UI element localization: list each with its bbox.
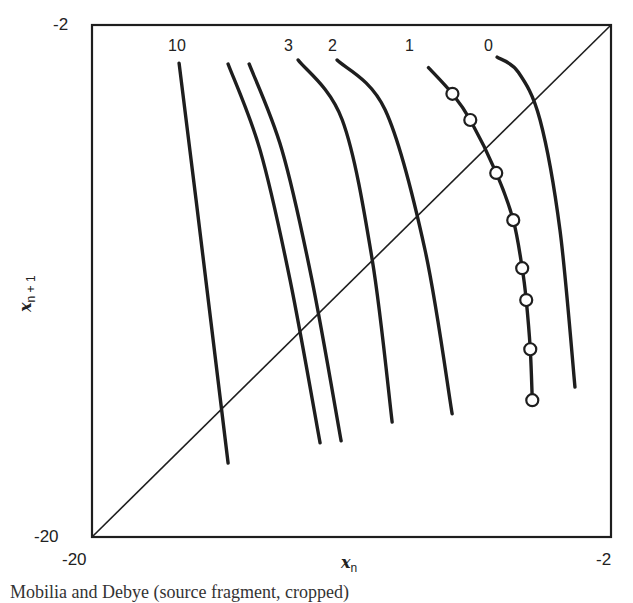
data-point-marker: [520, 294, 532, 306]
y-axis-label: xn + 1: [16, 275, 38, 312]
curve-2: [337, 60, 452, 414]
data-point-marker: [507, 214, 519, 226]
y-tick-max: -2: [53, 15, 68, 35]
curve-label-3: 3: [284, 37, 293, 55]
y-axis-sub: n + 1: [24, 275, 38, 302]
curve-label-2: 2: [328, 37, 337, 55]
x-axis-label: xn: [341, 553, 357, 575]
curve-unlabeled-b: [249, 64, 341, 441]
curve-label-1: 1: [405, 37, 414, 55]
x-axis-var: x: [341, 553, 351, 572]
y-axis-var: x: [16, 302, 35, 312]
x-axis-sub: n: [351, 561, 358, 575]
data-point-marker: [526, 394, 538, 406]
curve-10: [179, 63, 228, 463]
x-tick-min: -20: [62, 550, 87, 570]
x-tick-max: -2: [596, 550, 611, 570]
curve-label-10: 10: [168, 37, 186, 55]
y-tick-min: -20: [34, 527, 59, 547]
data-point-marker: [524, 343, 536, 355]
curve-label-0: 0: [484, 37, 493, 55]
data-point-marker: [516, 262, 528, 274]
curve-3: [298, 60, 392, 422]
data-point-marker: [446, 88, 458, 100]
data-point-marker: [464, 114, 476, 126]
figure-caption: Mobilia and Debye (source fragment, crop…: [10, 582, 349, 603]
data-point-marker: [490, 167, 502, 179]
